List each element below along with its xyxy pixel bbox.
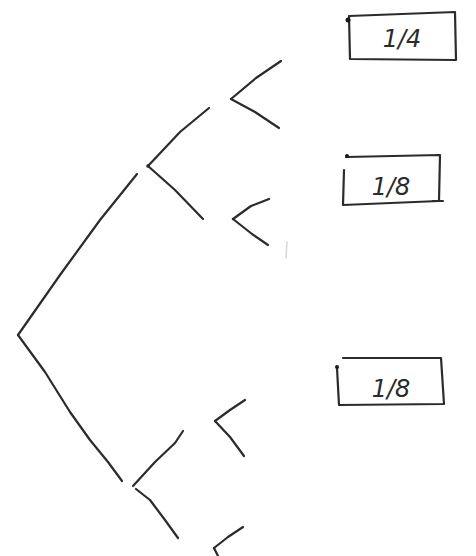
stray-mark: [286, 242, 287, 258]
leaf-upper-arm: [215, 400, 245, 421]
probability-label: 1/8: [372, 173, 411, 201]
upper-node-lower-branch: [148, 166, 203, 219]
root-node: [18, 174, 137, 481]
box-corner-dot: [335, 365, 339, 369]
leaf-lower-arm: [231, 99, 279, 128]
leaf-lower-arm: [233, 219, 268, 245]
leaf-upper-arm: [233, 199, 269, 219]
lower-node: [133, 431, 183, 538]
leaf-upper-arm: [231, 61, 281, 99]
probability-label: 1/8: [372, 375, 411, 403]
probability-box-3: 1/8: [335, 358, 444, 405]
root-lower-branch: [18, 335, 122, 481]
root-upper-branch: [18, 174, 137, 335]
leaf-lower-arm: [215, 421, 244, 456]
upper-node-upper-branch: [148, 108, 209, 166]
box-corner-dot: [345, 154, 349, 158]
probability-box-2: 1/8: [343, 154, 443, 205]
leaf-upper-arm: [214, 527, 243, 548]
leaf-lower-arm: [214, 548, 218, 556]
upper-upper-leaf-split: [231, 61, 281, 128]
lower-node-lower-branch: [136, 489, 178, 538]
probability-label: 1/4: [383, 25, 422, 53]
upper-lower-leaf-split: [233, 199, 269, 245]
probability-box-1: 1/4: [346, 12, 457, 60]
lower-node-upper-branch: [133, 431, 183, 486]
box-corner-dot: [346, 18, 351, 23]
probability-tree-diagram: 1/4 1/8 1/8: [0, 0, 476, 556]
lower-lower-leaf-split: [214, 527, 243, 556]
upper-node: [146, 108, 209, 219]
lower-upper-leaf-split: [215, 400, 245, 456]
